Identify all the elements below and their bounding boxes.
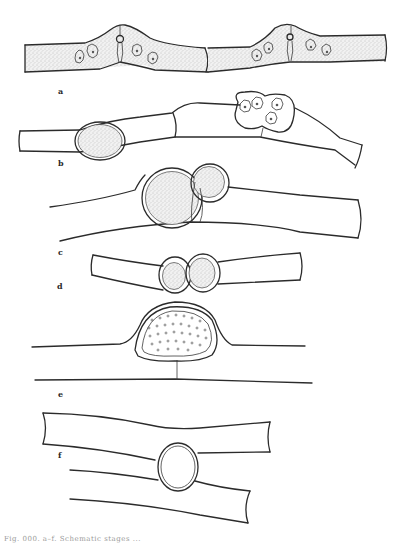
spore-dots [148, 314, 207, 351]
chloroplast-icon [240, 97, 283, 124]
figure-drawing [0, 0, 393, 543]
panel-f-drawing [43, 413, 270, 523]
panel-label-e: e [58, 389, 63, 399]
panel-label-a: a [58, 86, 63, 96]
figure-caption: Fig. 000. a–f. Schematic stages ... [4, 535, 389, 543]
panel-label-c: c [58, 247, 63, 257]
panel-label-f: f [58, 450, 61, 460]
panel-a-drawing [25, 24, 387, 72]
panel-label-d: d [57, 281, 63, 291]
panel-c-drawing [50, 164, 361, 241]
panel-b-drawing [19, 92, 362, 169]
panel-d-drawing [91, 253, 302, 293]
figure: a b c d e f Fig. 000. a–f. Schematic sta… [0, 0, 393, 543]
panel-label-b: b [58, 158, 64, 168]
panel-e-drawing [32, 302, 312, 383]
